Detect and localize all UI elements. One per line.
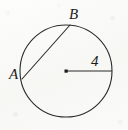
center-point-dot [65,70,68,73]
point-label-b: B [69,7,78,22]
geometry-canvas [0,0,128,130]
chord-ab [22,25,70,79]
radius-measure-label: 4 [91,54,99,69]
geometry-figure: B A 4 [0,0,128,130]
point-label-a: A [9,67,18,82]
